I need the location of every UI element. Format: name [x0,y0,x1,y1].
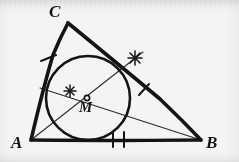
vertex-label-c: C [49,3,60,20]
triangle-outline [31,23,201,140]
incenter-label-m: M [79,100,92,115]
vertex-label-b: B [206,134,217,151]
asterisk-upper-right-icon [128,51,142,65]
side-cb-stroke [68,23,201,140]
vertex-label-a: A [11,134,22,151]
triangle-incircle-drawing [0,0,239,162]
geometry-figure-canvas: C A B M [0,0,239,162]
asterisk-near-center-icon [64,85,76,97]
